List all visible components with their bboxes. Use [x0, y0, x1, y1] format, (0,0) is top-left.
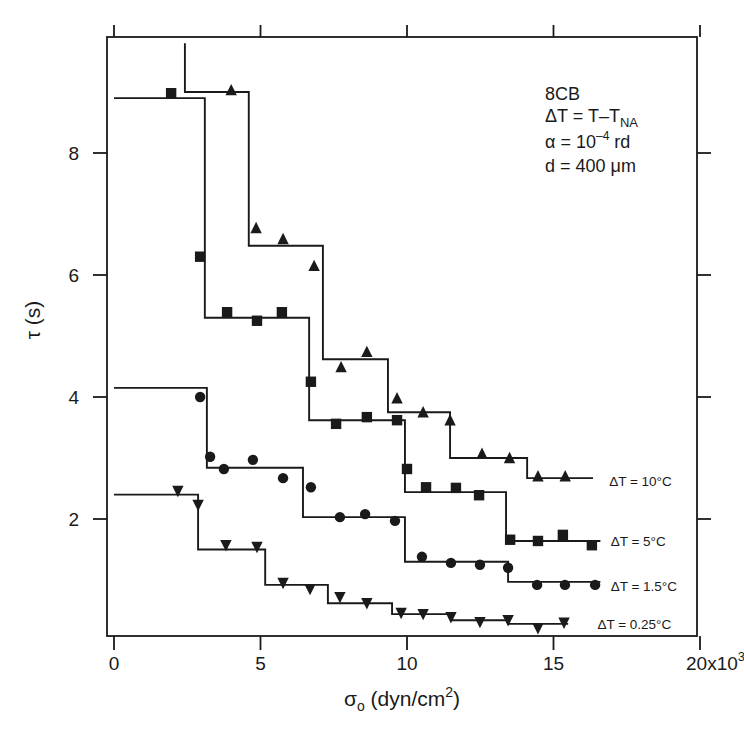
square-marker-icon	[587, 540, 597, 550]
y-tick-label: 2	[68, 509, 79, 530]
square-marker-icon	[402, 464, 412, 474]
x-tick-label: 0	[109, 653, 120, 674]
circle-marker-icon	[503, 563, 513, 573]
circle-marker-icon	[335, 512, 345, 522]
y-axis-title: τ (s)	[21, 301, 44, 340]
circle-marker-icon	[560, 580, 570, 590]
square-marker-icon	[252, 316, 262, 326]
square-marker-icon	[222, 307, 232, 317]
circle-marker-icon	[205, 452, 215, 462]
circle-marker-icon	[195, 392, 205, 402]
series-label: ΔT = 1.5°C	[611, 579, 678, 594]
annotation-material: 8CB	[545, 84, 580, 104]
series-label: ΔT = 10°C	[609, 474, 672, 489]
stress-relaxation-chart: 05101520x1032468 ΔT = 10°CΔT = 5°CΔT = 1…	[0, 0, 744, 743]
circle-marker-icon	[360, 509, 370, 519]
series-label: ΔT = 5°C	[611, 534, 666, 549]
square-marker-icon	[362, 412, 372, 422]
square-marker-icon	[392, 415, 402, 425]
square-marker-icon	[474, 490, 484, 500]
circle-marker-icon	[306, 482, 316, 492]
x-tick-label: 5	[255, 653, 266, 674]
x-tick-label: 20x103	[686, 649, 744, 674]
annotation-alpha: α = 10–4 rd	[545, 129, 630, 152]
annotation-thickness: d = 400 μm	[545, 156, 636, 176]
square-marker-icon	[277, 307, 287, 317]
circle-marker-icon	[446, 558, 456, 568]
square-marker-icon	[451, 483, 461, 493]
circle-marker-icon	[278, 473, 288, 483]
x-tick-label: 15	[543, 653, 564, 674]
square-marker-icon	[505, 535, 515, 545]
circle-marker-icon	[248, 455, 258, 465]
series-label: ΔT = 0.25°C	[597, 617, 671, 632]
circle-marker-icon	[219, 464, 229, 474]
x-tick-label: 10	[396, 653, 417, 674]
square-marker-icon	[558, 530, 568, 540]
square-marker-icon	[166, 88, 176, 98]
circle-marker-icon	[390, 516, 400, 526]
square-marker-icon	[533, 536, 543, 546]
square-marker-icon	[195, 252, 205, 262]
y-tick-label: 4	[68, 387, 79, 408]
square-marker-icon	[306, 377, 316, 387]
square-marker-icon	[331, 419, 341, 429]
square-marker-icon	[421, 482, 431, 492]
circle-marker-icon	[475, 560, 485, 570]
circle-marker-icon	[417, 552, 427, 562]
circle-marker-icon	[590, 580, 600, 590]
y-tick-label: 6	[68, 265, 79, 286]
circle-marker-icon	[532, 580, 542, 590]
y-tick-label: 8	[68, 143, 79, 164]
